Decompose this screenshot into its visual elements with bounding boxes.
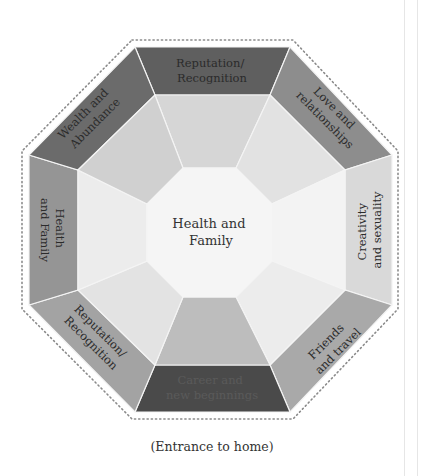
label-bottom-line-2: new beginnings — [166, 388, 258, 402]
label-top-line-2: Recognition — [177, 71, 247, 85]
label-top: Reputation/ Recognition — [176, 56, 248, 85]
center-label-line-1: Health and — [172, 216, 245, 231]
label-right-line-2: and sexuality — [370, 191, 384, 269]
label-left-line-1: Health — [53, 208, 67, 248]
center-label-line-2: Family — [189, 233, 234, 248]
label-right: Creativity and sexuality — [355, 191, 384, 269]
label-left-line-2: and Family — [38, 198, 52, 263]
label-bottom: Career and new beginnings — [166, 373, 258, 402]
label-bottom-line-1: Career and — [177, 373, 243, 387]
entrance-caption: (Entrance to home) — [0, 439, 424, 454]
label-top-line-1: Reputation/ — [176, 56, 244, 70]
bagua-diagram: Health and Family Reputation/ Recognitio… — [0, 0, 424, 476]
label-right-line-1: Creativity — [355, 203, 369, 261]
